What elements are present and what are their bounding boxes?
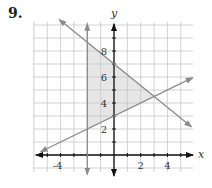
x-axis-label: x (198, 148, 205, 161)
x-tick-label: 2 (138, 160, 144, 171)
x-tick-label: -4 (53, 160, 63, 171)
y-tick-label: 4 (101, 98, 107, 109)
coordinate-plot: -4242468xy (0, 0, 212, 188)
x-tick-label: 4 (164, 160, 170, 171)
y-tick-label: 2 (101, 124, 107, 135)
y-tick-label: 6 (101, 72, 107, 83)
y-axis-label: y (110, 7, 118, 20)
y-tick-label: 8 (101, 46, 107, 57)
